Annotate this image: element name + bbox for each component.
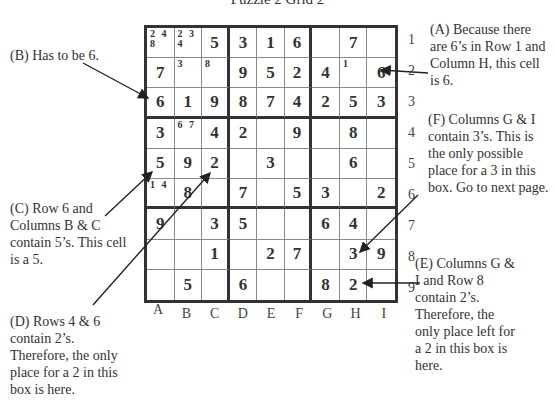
cell-E4 [257, 119, 285, 149]
cell-value: 9 [156, 214, 165, 234]
cell-B1: 2 3 4 [175, 28, 203, 58]
cell-value: 3 [377, 92, 386, 112]
cell-value: 3 [266, 153, 275, 173]
cell-C1: 5 [202, 28, 230, 58]
cell-I6: 2 [367, 179, 395, 209]
cell-B7 [175, 209, 203, 239]
cell-E8: 2 [257, 240, 285, 270]
cell-H6 [340, 179, 368, 209]
cell-C4: 4 [202, 119, 230, 149]
cell-F7 [285, 209, 313, 239]
cell-H1: 7 [340, 28, 368, 58]
column-label: A [144, 302, 172, 322]
cell-B2: 3 [175, 58, 203, 88]
cell-value: 2 [266, 244, 275, 264]
cell-A2: 7 [147, 58, 175, 88]
cell-value: 5 [349, 92, 358, 112]
cell-F1: 6 [285, 28, 313, 58]
cell-C7: 3 [202, 209, 230, 239]
cell-value: 7 [266, 92, 275, 112]
cell-I4 [367, 119, 395, 149]
cell-value: 1 [266, 33, 275, 53]
column-label: C [200, 306, 228, 322]
cell-D2: 9 [230, 58, 258, 88]
cell-value: 4 [293, 92, 302, 112]
note-a: (A) Because there are 6’s in Row 1 and C… [430, 21, 550, 89]
column-label: F [285, 306, 313, 322]
column-labels: ABCDEFGHI [144, 306, 398, 322]
cell-value: 9 [239, 63, 248, 83]
candidate-notes: 6 7 [178, 120, 197, 130]
cell-value: 5 [156, 153, 165, 173]
cell-value: 6 [239, 275, 248, 295]
cell-value: 4 [349, 214, 358, 234]
cell-value: 2 [321, 92, 330, 112]
cell-D3: 8 [230, 88, 258, 118]
cell-E1: 1 [257, 28, 285, 58]
cell-value: 6 [349, 153, 358, 173]
candidate-notes: 1 4 [150, 180, 169, 190]
note-f: (F) Columns G & I contain 3’s. This is t… [428, 111, 553, 196]
cell-I9 [367, 270, 395, 300]
cell-value: 6 [293, 33, 302, 53]
column-label: I [370, 306, 398, 322]
sudoku-grid: 2 4 82 3 45316773895241661987425336 7429… [144, 25, 398, 303]
cell-A3: 6 [147, 88, 175, 118]
cell-value: 8 [184, 183, 193, 203]
row-label: 3 [408, 87, 422, 118]
cell-C8: 1 [202, 240, 230, 270]
cell-A8 [147, 240, 175, 270]
cell-G5 [312, 149, 340, 179]
cell-D5 [230, 149, 258, 179]
cell-G2: 4 [312, 58, 340, 88]
cell-G6: 3 [312, 179, 340, 209]
cell-E7 [257, 209, 285, 239]
cell-I2: 6 [367, 58, 395, 88]
row-label: 6 [408, 179, 422, 210]
cell-value: 2 [239, 123, 248, 143]
cell-value: 2 [293, 63, 302, 83]
cell-value: 6 [321, 214, 330, 234]
cell-G1 [312, 28, 340, 58]
cell-F2: 2 [285, 58, 313, 88]
cell-F9 [285, 270, 313, 300]
cell-value: 3 [239, 33, 248, 53]
cell-D7: 5 [230, 209, 258, 239]
cell-D1: 3 [230, 28, 258, 58]
cell-B5: 9 [175, 149, 203, 179]
cell-value: 9 [184, 153, 193, 173]
cell-value: 2 [377, 183, 386, 203]
cell-E9 [257, 270, 285, 300]
cell-value: 4 [321, 63, 330, 83]
cell-I8: 9 [367, 240, 395, 270]
cell-H3: 5 [340, 88, 368, 118]
cell-value: 6 [156, 92, 165, 112]
cell-C3: 9 [202, 88, 230, 118]
cell-G3: 2 [312, 88, 340, 118]
cell-F8: 7 [285, 240, 313, 270]
cell-D8 [230, 240, 258, 270]
cell-value: 7 [156, 63, 165, 83]
cell-value: 5 [210, 33, 219, 53]
note-e: (E) Columns G & I and Row 8 contain 2’s.… [415, 255, 520, 374]
cell-value: 5 [184, 275, 193, 295]
cell-D6: 7 [230, 179, 258, 209]
cell-H2: 1 [340, 58, 368, 88]
cell-A5: 5 [147, 149, 175, 179]
cell-value: 2 [210, 153, 219, 173]
cell-F3: 4 [285, 88, 313, 118]
cell-E6 [257, 179, 285, 209]
cell-F4: 9 [285, 119, 313, 149]
cell-value: 6 [377, 63, 386, 83]
cell-value: 8 [321, 275, 330, 295]
column-label: H [342, 306, 370, 322]
row-label: 4 [408, 118, 422, 149]
cell-value: 9 [377, 244, 386, 264]
cell-value: 1 [210, 244, 219, 264]
row-label: 2 [408, 56, 422, 87]
cell-G4 [312, 119, 340, 149]
note-d: (D) Rows 4 & 6 contain 2’s. Therefore, t… [10, 313, 135, 398]
cell-H8: 3 [340, 240, 368, 270]
cell-G8 [312, 240, 340, 270]
cell-value: 8 [349, 123, 358, 143]
